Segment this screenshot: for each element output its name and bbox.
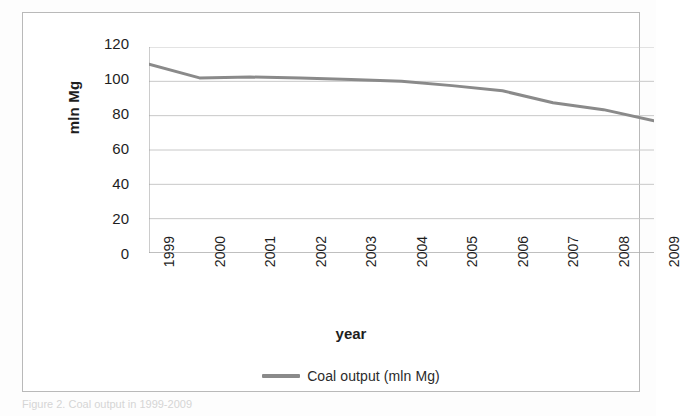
figure-caption: Figure 2. Coal output in 1999-2009 bbox=[22, 398, 422, 412]
x-axis-tick-labels: 1999200020012002200320042005200620072008… bbox=[149, 257, 654, 319]
y-tick-label: 60 bbox=[81, 141, 129, 156]
y-tick-label: 120 bbox=[81, 36, 129, 51]
y-axis-tick-labels: 120 100 80 60 40 20 0 bbox=[81, 43, 129, 253]
x-tick-label: 2000 bbox=[193, 236, 207, 292]
y-tick-label: 80 bbox=[81, 106, 129, 121]
x-tick-label: 2002 bbox=[294, 236, 308, 292]
y-tick-label: 100 bbox=[81, 71, 129, 86]
x-tick-label: 2004 bbox=[395, 236, 409, 292]
chart-legend: Coal output (mln Mg) bbox=[23, 368, 679, 384]
x-tick-label: 2001 bbox=[243, 236, 257, 292]
x-axis-title: year bbox=[23, 325, 679, 342]
x-tick-label: 2009 bbox=[647, 236, 661, 292]
series-line-coal-output bbox=[149, 64, 654, 121]
line-chart-svg bbox=[149, 47, 654, 253]
legend-label: Coal output (mln Mg) bbox=[307, 368, 440, 384]
chart-frame: mln Mg 120 100 80 60 40 20 0 19992000200… bbox=[22, 12, 640, 392]
x-tick-label: 2005 bbox=[445, 236, 459, 292]
y-tick-label: 20 bbox=[81, 211, 129, 226]
x-tick-label: 2008 bbox=[597, 236, 611, 292]
plot-area bbox=[149, 47, 654, 253]
legend-line-swatch-icon bbox=[262, 374, 300, 378]
x-tick-label: 2007 bbox=[546, 236, 560, 292]
y-tick-label: 0 bbox=[81, 246, 129, 261]
y-axis-title: mln Mg bbox=[65, 48, 82, 168]
x-tick-label: 2003 bbox=[344, 236, 358, 292]
x-tick-label: 1999 bbox=[142, 236, 156, 292]
x-tick-label: 2006 bbox=[496, 236, 510, 292]
y-tick-label: 40 bbox=[81, 176, 129, 191]
